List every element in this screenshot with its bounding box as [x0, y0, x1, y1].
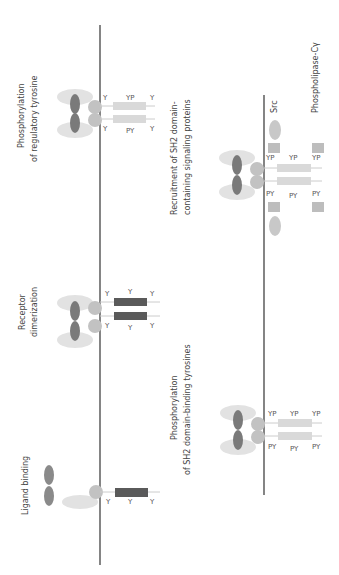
step-label-ligand-binding: Ligand binding	[21, 456, 30, 515]
ligand-icon	[44, 465, 54, 485]
step-sh2-binding-phosphorylation: YP YP YP PY PY PY	[220, 405, 322, 455]
phosphotyrosine-label: PY	[289, 192, 298, 200]
step-label-regulatory: of regulatory tyrosine	[30, 76, 39, 163]
tyrosine-label: Y	[149, 290, 155, 298]
phosphotyrosine-label: YP	[265, 154, 275, 162]
step-ligand-binding: Y Y Y	[44, 465, 160, 509]
step-label-regulatory: Phosphorylation	[17, 84, 26, 148]
step-label-recruitment: containing signaling proteins	[183, 99, 192, 215]
step-sh2-recruitment: YP YP YP PY PY PY	[219, 120, 324, 236]
step-receptor-dimerization: Y Y Y Y Y Y	[57, 288, 160, 348]
phosphotyrosine-label: PY	[290, 445, 299, 453]
ligand-icon	[232, 155, 242, 175]
phosphotyrosine-label: PY	[268, 443, 277, 451]
phosphotyrosine-label: YP	[289, 410, 299, 418]
diagram-canvas: Y Y Y Y Y Y Y Y Y Y YP Y Y P	[0, 0, 339, 575]
tyrosine-label: Y	[102, 125, 108, 133]
kinase-domain-icon	[113, 102, 146, 110]
tyrosine-label: Y	[149, 498, 155, 506]
sh2-domain-icon	[268, 202, 280, 212]
tyrosine-label: Y	[104, 290, 110, 298]
step-regulatory-phosphorylation: Y YP Y Y PY Y	[57, 89, 155, 138]
kinase-domain-icon	[115, 488, 148, 497]
phosphotyrosine-label: YP	[267, 410, 277, 418]
kinase-domain-icon	[114, 298, 147, 306]
src-label: Src	[270, 100, 279, 113]
phosphotyrosine-label: YP	[125, 94, 135, 102]
step-label-sh2-phosphorylation: of SH2 domain-binding tyrosines	[183, 344, 192, 475]
step-label-dimerization: dimerization	[30, 287, 39, 337]
tyrosine-label: Y	[104, 322, 110, 330]
phosphotyrosine-label: YP	[311, 410, 321, 418]
ligand-icon	[233, 430, 243, 450]
tyrosine-label: Y	[149, 125, 155, 133]
phosphotyrosine-label: YP	[288, 154, 298, 162]
tyrosine-label: Y	[127, 288, 133, 296]
phosphotyrosine-label: PY	[312, 443, 321, 451]
ligand-icon	[70, 301, 80, 321]
step-label-sh2-phosphorylation: Phosphorylation	[170, 376, 179, 440]
phosphotyrosine-label: PY	[126, 127, 135, 135]
tyrosine-label: Y	[127, 324, 133, 332]
tyrosine-label: Y	[102, 94, 108, 102]
phosphotyrosine-label: YP	[311, 154, 321, 162]
src-protein-icon	[269, 120, 281, 140]
step-label-recruitment: Recruitment of SH2 domain-	[170, 101, 179, 215]
plc-label: Phospholipase-Cγ	[311, 42, 320, 113]
phosphotyrosine-label: PY	[266, 190, 275, 198]
ligand-icon	[70, 113, 80, 133]
phosphotyrosine-label: PY	[312, 190, 321, 198]
tyrosine-label: Y	[149, 94, 155, 102]
ligand-icon	[70, 321, 80, 341]
plc-sh2-domain-icon	[312, 202, 324, 212]
src-protein-icon	[269, 216, 281, 236]
step-label-dimerization: Receptor	[18, 293, 27, 330]
ligand-icon	[232, 175, 242, 195]
kinase-domain-icon	[114, 312, 147, 320]
sh2-domain-icon	[268, 143, 280, 153]
tyrosine-label: Y	[127, 498, 133, 506]
tyrosine-label: Y	[105, 498, 111, 506]
tyrosine-label: Y	[149, 322, 155, 330]
ligand-icon	[233, 410, 243, 430]
kinase-domain-icon	[113, 115, 146, 123]
ligand-icon	[44, 486, 54, 506]
rtk-diagram: Y Y Y Y Y Y Y Y Y Y YP Y Y P	[0, 0, 339, 575]
plc-sh2-domain-icon	[312, 143, 324, 153]
ligand-icon	[70, 94, 80, 114]
